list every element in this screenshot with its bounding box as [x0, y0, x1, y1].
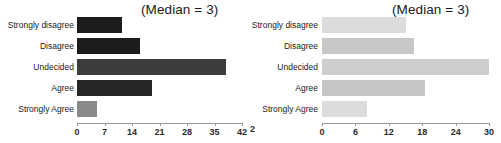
axis-tick-label: 14 — [127, 127, 137, 137]
median-annotation-left: (Median = 3) — [141, 2, 218, 17]
bar-disagree — [77, 38, 140, 54]
category-label: Strongly disagree — [0, 17, 74, 33]
category-label: Strongly Agree — [0, 101, 74, 117]
bar-rows-right: Strongly disagreeDisagreeUndecidedAgreeS… — [250, 17, 501, 122]
axis-tick — [242, 123, 243, 126]
category-label: Disagree — [0, 38, 74, 54]
axis-tick-label: 21 — [155, 127, 165, 137]
category-label: Strongly Agree — [250, 101, 318, 117]
chart-panel-left: (Median = 3) Strongly disagreeDisagreeUn… — [0, 0, 250, 143]
axis-tick — [215, 123, 216, 126]
chart-panel-right: 2 (Median = 3) Strongly disagreeDisagree… — [250, 0, 501, 143]
bar-agree — [322, 80, 425, 96]
bar-agree — [77, 80, 152, 96]
axis-tick-label: 42 — [237, 127, 247, 137]
plot-area-right: Strongly disagreeDisagreeUndecidedAgreeS… — [250, 17, 501, 122]
plot-area-left: Strongly disagreeDisagreeUndecidedAgreeS… — [0, 17, 250, 122]
axis-tick-label: 30 — [484, 127, 494, 137]
bar-row: Strongly Agree — [250, 101, 501, 122]
bar-strongly-disagree — [77, 17, 122, 33]
category-label: Disagree — [250, 38, 318, 54]
axis-tick-label: 0 — [74, 127, 79, 137]
axis-tick-label: 28 — [182, 127, 192, 137]
axis-tick — [77, 123, 78, 126]
axis-tick — [489, 123, 490, 126]
axis-tick-label: 24 — [451, 127, 461, 137]
bar-row: Agree — [0, 80, 250, 101]
likert-bar-chart-figure: (Median = 3) Strongly disagreeDisagreeUn… — [0, 0, 501, 143]
axis-tick-label: 6 — [353, 127, 358, 137]
axis-tick — [132, 123, 133, 126]
category-label: Agree — [250, 80, 318, 96]
axis-tick — [187, 123, 188, 126]
axis-tick-label: 35 — [210, 127, 220, 137]
axis-tick — [456, 123, 457, 126]
axis-tick — [322, 123, 323, 126]
axis-tick-label: 7 — [102, 127, 107, 137]
median-annotation-right: (Median = 3) — [392, 2, 469, 17]
axis-tick-label: 18 — [417, 127, 427, 137]
bar-row: Disagree — [0, 38, 250, 59]
bar-rows-left: Strongly disagreeDisagreeUndecidedAgreeS… — [0, 17, 250, 122]
axis-tick — [422, 123, 423, 126]
axis-line — [322, 123, 489, 124]
axis-tick — [160, 123, 161, 126]
bar-row: Strongly disagree — [250, 17, 501, 38]
axis-tick — [389, 123, 390, 126]
bar-row: Undecided — [250, 59, 501, 80]
bar-strongly-agree — [77, 101, 97, 117]
bar-undecided — [77, 59, 226, 75]
axis-tick-label: 0 — [319, 127, 324, 137]
bar-strongly-agree — [322, 101, 367, 117]
axis-tick-label: 12 — [384, 127, 394, 137]
category-label: Undecided — [250, 59, 318, 75]
bar-row: Agree — [250, 80, 501, 101]
bar-disagree — [322, 38, 414, 54]
bar-row: Strongly disagree — [0, 17, 250, 38]
axis-tick — [355, 123, 356, 126]
axis-tick — [105, 123, 106, 126]
x-axis-left: 071421283542 — [0, 123, 250, 143]
bar-row: Undecided — [0, 59, 250, 80]
category-label: Undecided — [0, 59, 74, 75]
bar-row: Disagree — [250, 38, 501, 59]
bar-undecided — [322, 59, 489, 75]
bar-strongly-disagree — [322, 17, 406, 33]
category-label: Agree — [0, 80, 74, 96]
bar-row: Strongly Agree — [0, 101, 250, 122]
x-axis-right: 0612182430 — [250, 123, 501, 143]
category-label: Strongly disagree — [250, 17, 318, 33]
